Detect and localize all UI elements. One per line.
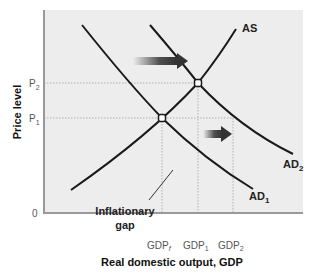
- inflationary-gap-label: Inflationary: [95, 205, 155, 217]
- ad-as-diagram: AS AD2 AD1 Inflationary gap P2 P1 0 GDPf…: [0, 0, 314, 279]
- inflationary-gap-label-line2: gap: [115, 219, 135, 231]
- equilibrium-point-new: [195, 80, 202, 87]
- x-tick-gdp1: GDP1: [183, 240, 209, 252]
- y-axis-title: Price level: [11, 85, 23, 139]
- origin-label: 0: [32, 208, 38, 219]
- y-tick-p1: P1: [29, 113, 40, 126]
- as-label: AS: [242, 22, 257, 34]
- x-tick-gdp2: GDP2: [218, 240, 244, 252]
- y-tick-p2: P2: [29, 78, 40, 91]
- equilibrium-point-initial: [159, 115, 166, 122]
- x-tick-gdpf: GDPf: [147, 240, 172, 252]
- x-axis-title: Real domestic output, GDP: [101, 256, 243, 268]
